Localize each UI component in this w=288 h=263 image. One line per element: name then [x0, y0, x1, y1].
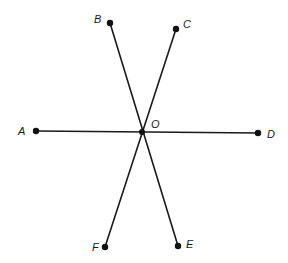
label-E: E [186, 238, 194, 250]
point-E [175, 243, 181, 249]
point-O [139, 129, 145, 135]
label-O: O [151, 118, 160, 130]
label-F: F [92, 241, 100, 253]
line-AD [36, 131, 258, 133]
point-D [255, 130, 261, 136]
label-D: D [267, 128, 275, 140]
label-A: A [17, 125, 25, 137]
point-F [102, 244, 108, 250]
line-CF [105, 29, 176, 247]
point-B [107, 20, 113, 26]
point-C [173, 26, 179, 32]
label-C: C [183, 18, 191, 30]
label-B: B [94, 13, 101, 25]
point-A [33, 128, 39, 134]
geometry-diagram: A B C D E F O [0, 0, 288, 263]
